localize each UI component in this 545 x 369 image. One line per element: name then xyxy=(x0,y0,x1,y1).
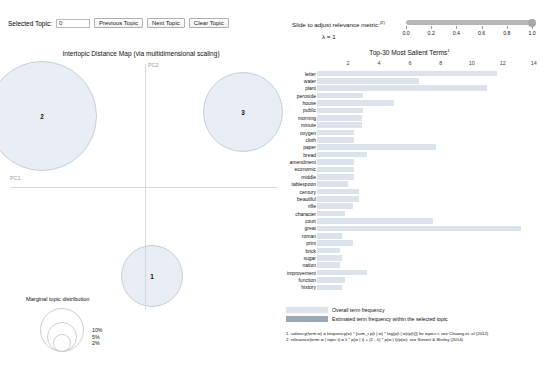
term-label[interactable]: house xyxy=(302,100,316,106)
term-bar-overall xyxy=(317,211,345,217)
term-label[interactable]: roman xyxy=(302,233,316,239)
term-bar-overall xyxy=(317,218,433,224)
term-bar-overall xyxy=(317,189,359,195)
salient-terms-panel: Top-30 Most Salient Terms1 2468101214 le… xyxy=(262,48,545,369)
term-bar-row[interactable]: court xyxy=(262,218,545,225)
term-bar-overall xyxy=(317,100,394,106)
term-bar-row[interactable]: minute xyxy=(262,122,545,129)
topic-controls: Selected Topic: Previous Topic Next Topi… xyxy=(8,18,229,28)
term-label[interactable]: amendment xyxy=(290,159,316,165)
term-bar-row[interactable]: bread xyxy=(262,151,545,158)
relevance-slider-track[interactable] xyxy=(406,20,532,25)
terms-footnote-marker: 1 xyxy=(447,48,449,53)
term-bar-row[interactable]: nation xyxy=(262,262,545,269)
lambda-value-label: λ = 1 xyxy=(322,33,336,40)
term-bar-row[interactable]: sugar xyxy=(262,254,545,261)
relevance-footnote-marker: (2) xyxy=(380,20,385,25)
term-label[interactable]: beautiful xyxy=(297,196,316,202)
term-label[interactable]: sugar xyxy=(303,255,316,261)
term-bar-row[interactable]: paper xyxy=(262,144,545,151)
term-label[interactable]: water xyxy=(304,78,316,84)
term-label[interactable]: nation xyxy=(302,262,316,268)
map-title: Intertopic Distance Map (via multidimens… xyxy=(0,50,282,57)
term-label[interactable]: print xyxy=(306,240,316,246)
terms-x-tick-label: 2 xyxy=(346,60,349,66)
marginal-legend-size-label: 2% xyxy=(92,340,100,346)
term-bar-row[interactable]: tablespoon xyxy=(262,181,545,188)
term-label[interactable]: rifle xyxy=(308,203,316,209)
term-bar-row[interactable]: cloth xyxy=(262,136,545,143)
footnote-2: 2. relevance(term w | topic t) = λ * p(w… xyxy=(286,337,544,343)
term-label[interactable]: character xyxy=(295,211,316,217)
term-label[interactable]: cloth xyxy=(305,137,316,143)
topic-circle-label: 2 xyxy=(40,113,44,120)
term-label[interactable]: public xyxy=(303,107,316,113)
term-bar-row[interactable]: beautiful xyxy=(262,195,545,202)
term-label[interactable]: history xyxy=(301,284,316,290)
term-bar-row[interactable]: public xyxy=(262,107,545,114)
map-plot-area[interactable]: PC2 PC1 231 xyxy=(0,62,282,312)
previous-topic-button[interactable]: Previous Topic xyxy=(94,18,143,28)
term-label[interactable]: economic xyxy=(295,166,316,172)
term-label[interactable]: minute xyxy=(301,122,316,128)
term-bar-overall xyxy=(317,240,353,246)
term-label[interactable]: tablespoon xyxy=(292,181,316,187)
term-label[interactable]: brick xyxy=(305,248,316,254)
terms-x-tick-label: 14 xyxy=(531,60,537,66)
term-bar-row[interactable]: peroxide xyxy=(262,92,545,99)
term-label[interactable]: improvement xyxy=(287,270,316,276)
term-label[interactable]: plant xyxy=(305,85,316,91)
term-bar-overall xyxy=(317,174,354,180)
term-bar-row[interactable]: function xyxy=(262,277,545,284)
selected-topic-input[interactable] xyxy=(56,19,90,28)
term-label[interactable]: function xyxy=(298,277,316,283)
term-bar-row[interactable]: letter xyxy=(262,70,545,77)
term-bar-row[interactable]: oxygen xyxy=(262,129,545,136)
topic-circle-label: 1 xyxy=(150,273,154,280)
term-bar-row[interactable]: roman xyxy=(262,232,545,239)
term-label[interactable]: oxygen xyxy=(300,130,316,136)
term-bar-row[interactable]: brick xyxy=(262,247,545,254)
term-bar-row[interactable]: house xyxy=(262,100,545,107)
relevance-metric-panel: Slide to adjust relevance metric:(2) λ =… xyxy=(292,14,540,48)
term-bar-row[interactable]: plant xyxy=(262,85,545,92)
term-label[interactable]: peroxide xyxy=(297,93,316,99)
term-bar-row[interactable]: history xyxy=(262,284,545,291)
slider-tick-mark xyxy=(406,26,407,29)
term-label[interactable]: great xyxy=(305,225,316,231)
legend-label-overall: Overall term frequency xyxy=(332,307,384,313)
term-label[interactable]: middle xyxy=(301,174,316,180)
terms-legend: Overall term frequency Estimated term fr… xyxy=(286,306,516,326)
slider-tick-label: 0.6 xyxy=(478,30,485,36)
terms-x-tick-label: 6 xyxy=(408,60,411,66)
term-bar-row[interactable]: rifle xyxy=(262,203,545,210)
term-bar-row[interactable]: century xyxy=(262,188,545,195)
term-bar-row[interactable]: print xyxy=(262,240,545,247)
legend-label-estimated: Estimated term frequency within the sele… xyxy=(332,316,448,322)
term-bar-row[interactable]: character xyxy=(262,210,545,217)
term-label[interactable]: century xyxy=(300,189,316,195)
term-label[interactable]: letter xyxy=(305,71,316,77)
term-bar-row[interactable]: middle xyxy=(262,173,545,180)
next-topic-button[interactable]: Next Topic xyxy=(147,18,185,28)
term-bar-row[interactable]: amendment xyxy=(262,159,545,166)
term-label[interactable]: morning xyxy=(298,115,316,121)
clear-topic-button[interactable]: Clear Topic xyxy=(189,18,229,28)
term-label[interactable]: court xyxy=(305,218,316,224)
term-bar-row[interactable]: great xyxy=(262,225,545,232)
relevance-slider-label-text: Slide to adjust relevance metric: xyxy=(292,21,380,28)
terms-x-tick-label: 4 xyxy=(377,60,380,66)
term-bar-overall xyxy=(317,255,342,261)
term-bar-overall xyxy=(317,122,362,128)
map-y-axis-label: PC2 xyxy=(148,62,159,68)
term-bar-row[interactable]: improvement xyxy=(262,269,545,276)
term-label[interactable]: paper xyxy=(303,144,316,150)
term-bar-overall xyxy=(317,144,436,150)
topic-circle[interactable]: 2 xyxy=(0,61,97,171)
slider-tick-label: 0.0 xyxy=(402,30,409,36)
term-bar-row[interactable]: water xyxy=(262,77,545,84)
legend-row-estimated: Estimated term frequency within the sele… xyxy=(286,315,448,322)
term-bar-row[interactable]: economic xyxy=(262,166,545,173)
term-label[interactable]: bread xyxy=(303,152,316,158)
term-bar-row[interactable]: morning xyxy=(262,114,545,121)
